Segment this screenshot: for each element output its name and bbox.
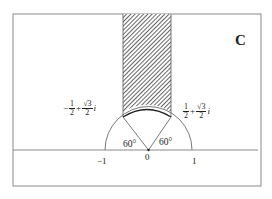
plus-sign: + (76, 104, 81, 113)
imag-part-fraction: √3 2 (196, 103, 206, 120)
denominator: 2 (84, 109, 90, 117)
fundamental-domain-diagram (0, 0, 272, 199)
imaginary-unit: i (207, 107, 210, 116)
imag-part-fraction: √3 2 (82, 100, 92, 117)
angle-label-left: 60° (123, 140, 136, 150)
hatched-region (123, 14, 171, 124)
unit-semicircle (105, 107, 192, 151)
angle-label-right: 60° (159, 138, 172, 148)
real-part-fraction: 1 2 (69, 100, 75, 117)
point-label-right: 1 2 + √3 2 i (183, 103, 210, 120)
panel-label: C (235, 33, 246, 48)
tick-label-zero: 0 (145, 153, 150, 162)
plus-sign: + (190, 107, 195, 116)
point-label-left: − 1 2 + √3 2 i (63, 100, 96, 117)
tick-label-minus-one: −1 (97, 157, 107, 166)
denominator: 2 (183, 112, 189, 120)
origin-point (147, 149, 149, 151)
imaginary-unit: i (94, 104, 97, 113)
denominator: 2 (198, 112, 204, 120)
tick-label-one: 1 (192, 157, 197, 166)
denominator: 2 (69, 109, 75, 117)
real-part-fraction: 1 2 (183, 103, 189, 120)
sign: − (63, 104, 68, 113)
